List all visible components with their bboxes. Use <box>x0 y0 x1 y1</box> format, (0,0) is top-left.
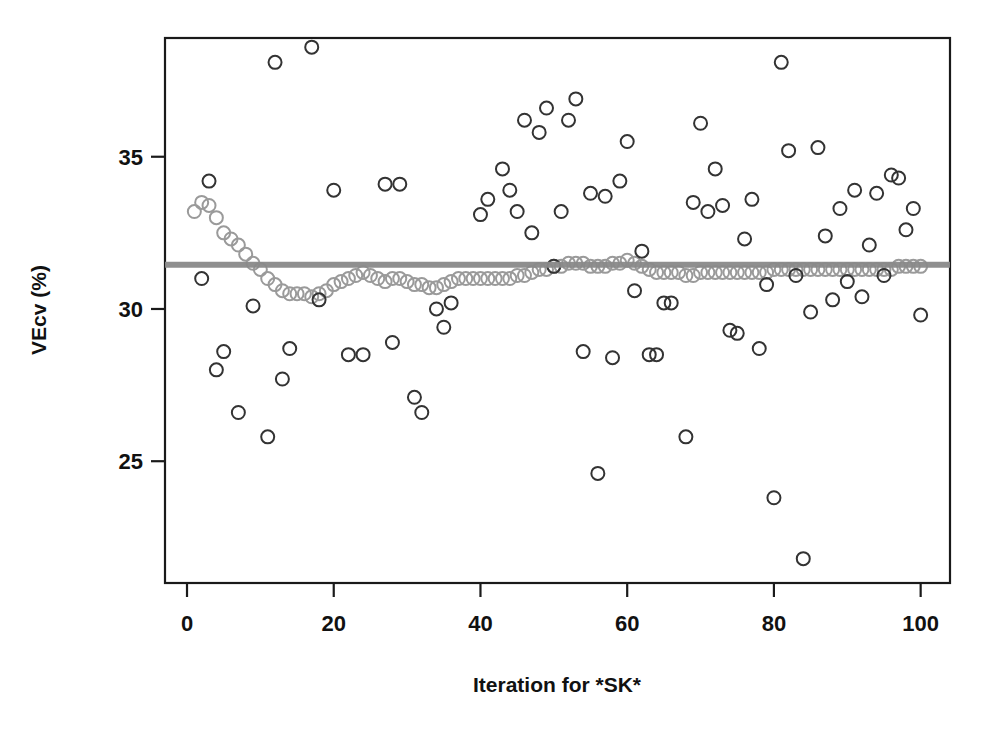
y-tick-label: 25 <box>119 449 143 474</box>
x-tick-label: 20 <box>321 611 345 636</box>
x-tick-label: 100 <box>902 611 939 636</box>
x-tick-label: 80 <box>762 611 786 636</box>
scatter-plot-figure: 253035 020406080100 VEcv (%) Iteration f… <box>0 0 981 737</box>
y-tick-label: 35 <box>119 145 143 170</box>
y-tick-label: 30 <box>119 297 143 322</box>
x-axis-title: Iteration for *SK* <box>473 673 642 696</box>
x-tick-label: 0 <box>181 611 193 636</box>
plot-canvas: 253035 020406080100 VEcv (%) Iteration f… <box>0 0 981 737</box>
x-tick-label: 40 <box>468 611 492 636</box>
x-tick-label: 60 <box>615 611 639 636</box>
y-axis-title: VEcv (%) <box>27 265 50 355</box>
